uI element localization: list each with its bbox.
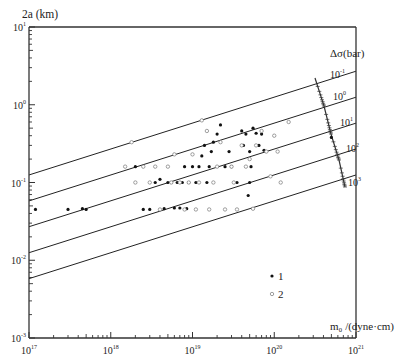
data-point-type2 bbox=[134, 181, 137, 184]
data-point-type1 bbox=[158, 178, 161, 181]
data-point-type1 bbox=[148, 208, 151, 211]
y-axis-label: 2a (km) bbox=[22, 8, 58, 21]
legend-marker-open bbox=[270, 292, 273, 295]
data-point-type1 bbox=[251, 127, 254, 130]
data-point-type1 bbox=[248, 150, 251, 153]
stress-drop-line bbox=[29, 175, 356, 279]
data-point-type1 bbox=[66, 208, 69, 211]
data-point-type1 bbox=[81, 207, 84, 210]
data-point-type1 bbox=[247, 194, 250, 197]
data-point-type2 bbox=[273, 134, 276, 137]
data-point-type1 bbox=[227, 150, 230, 153]
stress-drop-value-label: 103 bbox=[348, 176, 361, 188]
axes: 1017101810191020102110-310-210-1100101 bbox=[11, 21, 364, 356]
data-point-type2 bbox=[200, 119, 203, 122]
data-point-type2 bbox=[260, 129, 263, 132]
data-point-type2 bbox=[235, 208, 238, 211]
data-point-type1 bbox=[163, 207, 166, 210]
data-point-type2 bbox=[219, 140, 222, 143]
data-point-type2 bbox=[223, 208, 226, 211]
stress-drop-scale-label: Δσ(bar) bbox=[330, 47, 365, 60]
data-point-type2 bbox=[170, 181, 173, 184]
data-point-type2 bbox=[276, 150, 279, 153]
data-point-type2 bbox=[178, 181, 181, 184]
data-point-type2 bbox=[207, 208, 210, 211]
data-point-type1 bbox=[203, 144, 206, 147]
data-point-type2 bbox=[279, 181, 282, 184]
data-point-type1 bbox=[212, 141, 215, 144]
legend-label: 1 bbox=[278, 270, 284, 282]
data-point-type1 bbox=[142, 208, 145, 211]
data-point-type2 bbox=[158, 208, 161, 211]
data-point-type1 bbox=[330, 136, 333, 139]
x-tick-label: 1017 bbox=[21, 344, 37, 356]
data-point-type2 bbox=[130, 140, 133, 143]
chart-container: 10-1100101102103 1017101810191020102110-… bbox=[0, 0, 396, 361]
data-point-type1 bbox=[166, 181, 169, 184]
stress-drop-line bbox=[29, 123, 356, 227]
data-point-type1 bbox=[210, 150, 213, 153]
y-tick-label: 10-1 bbox=[11, 177, 26, 189]
data-point-type2 bbox=[248, 157, 251, 160]
data-point-type1 bbox=[173, 206, 176, 209]
data-point-type2 bbox=[205, 129, 208, 132]
data-point-type1 bbox=[249, 165, 252, 168]
data-point-type1 bbox=[178, 206, 181, 209]
data-point-type2 bbox=[265, 150, 268, 153]
stress-drop-value-label: 10-1 bbox=[330, 68, 345, 80]
data-point-type2 bbox=[240, 144, 243, 147]
stress-drop-value-label: 101 bbox=[340, 116, 353, 128]
legend-label: 2 bbox=[278, 288, 284, 300]
data-point-type2 bbox=[166, 165, 169, 168]
data-point-type1 bbox=[244, 132, 247, 135]
stress-drop-lines: 10-1100101102103 bbox=[29, 68, 361, 279]
y-tick-label: 101 bbox=[13, 21, 26, 33]
y-tick-label: 10-3 bbox=[11, 332, 26, 344]
data-point-type1 bbox=[85, 208, 88, 211]
y-tick-label: 10-2 bbox=[11, 254, 26, 266]
data-point-type2 bbox=[212, 181, 215, 184]
data-point-type2 bbox=[232, 181, 235, 184]
data-point-type2 bbox=[148, 181, 151, 184]
data-point-type2 bbox=[287, 120, 290, 123]
legend-marker-filled bbox=[270, 274, 273, 277]
data-point-type2 bbox=[244, 165, 247, 168]
y-tick-label: 100 bbox=[13, 99, 26, 111]
data-point-type1 bbox=[219, 123, 222, 126]
data-point-type2 bbox=[142, 165, 145, 168]
data-point-type2 bbox=[123, 165, 126, 168]
data-point-type2 bbox=[183, 208, 186, 211]
stress-drop-value-label: 100 bbox=[333, 90, 346, 102]
stress-drop-line bbox=[29, 97, 356, 201]
data-point-type1 bbox=[248, 181, 251, 184]
x-tick-label: 1019 bbox=[185, 344, 201, 356]
stress-drop-scale: 10-1100101102103 bbox=[315, 68, 361, 188]
legend: 12 bbox=[270, 270, 283, 300]
data-point-type1 bbox=[34, 208, 37, 211]
data-point-type1 bbox=[183, 165, 186, 168]
data-point-type2 bbox=[215, 165, 218, 168]
data-point-type2 bbox=[230, 165, 233, 168]
data-points bbox=[34, 119, 333, 212]
data-point-type2 bbox=[254, 144, 257, 147]
x-axis-label: m₀ /(dyne·cm) bbox=[330, 320, 394, 333]
data-point-type1 bbox=[205, 181, 208, 184]
data-point-type1 bbox=[154, 181, 157, 184]
data-point-type1 bbox=[235, 181, 238, 184]
data-point-type2 bbox=[194, 208, 197, 211]
stress-drop-line bbox=[29, 149, 356, 253]
data-point-type2 bbox=[251, 207, 254, 210]
data-point-type1 bbox=[208, 165, 211, 168]
x-tick-label: 1021 bbox=[348, 344, 364, 356]
axis-labels: 2a (km) m₀ /(dyne·cm) Δσ(bar) bbox=[22, 8, 394, 333]
data-point-type2 bbox=[187, 181, 190, 184]
data-point-type2 bbox=[197, 181, 200, 184]
data-point-type1 bbox=[200, 154, 203, 157]
scatter-plot: 10-1100101102103 1017101810191020102110-… bbox=[0, 0, 396, 361]
data-point-type2 bbox=[191, 153, 194, 156]
x-tick-label: 1018 bbox=[103, 344, 119, 356]
data-point-type1 bbox=[216, 132, 219, 135]
data-point-type2 bbox=[154, 165, 157, 168]
data-point-type1 bbox=[223, 165, 226, 168]
data-point-type2 bbox=[173, 153, 176, 156]
